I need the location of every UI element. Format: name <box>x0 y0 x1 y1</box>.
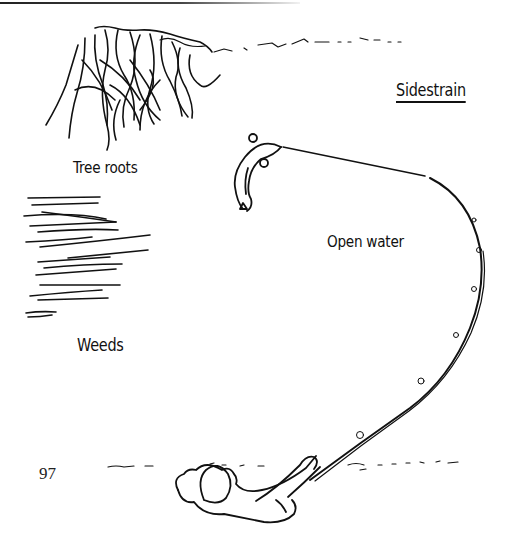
figure-title: Sidestrain <box>396 80 466 103</box>
weeds-label: Weeds <box>77 335 124 355</box>
fishing-rod-icon <box>310 178 485 481</box>
book-page: Sidestrain Tree roots Open water Weeds 9… <box>0 0 515 542</box>
tree-roots-label: Tree roots <box>73 158 137 177</box>
weeds-icon <box>24 197 150 317</box>
open-water-label: Open water <box>327 232 404 251</box>
page-number: 97 <box>39 464 56 484</box>
far-bank-line <box>160 38 401 52</box>
fishing-line <box>283 147 425 176</box>
tree-roots-icon <box>46 27 220 151</box>
angler-icon <box>176 456 320 522</box>
near-bank-line <box>108 461 458 470</box>
fish-icon <box>235 134 281 211</box>
